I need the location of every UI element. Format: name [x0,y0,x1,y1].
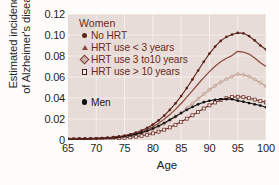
y-tick-label: 0.10 [44,29,65,41]
legend-men: Men [78,96,111,108]
y-tick-label: 0.06 [44,71,65,83]
filled-circle-icon [78,33,91,38]
x-axis-title: Age [68,159,266,171]
legend-group-title-women: Women [79,17,188,29]
x-tick-label: 100 [257,142,275,154]
legend-label-hrt-over-10: HRT use > 10 years [91,66,180,77]
x-tick-label: 65 [62,142,74,154]
legend-label-hrt-under-3: HRT use < 3 years [91,42,174,53]
y-axis-title: Estimated incidence of Alzheimer's disea… [7,0,34,113]
x-axis-tick-labels: 65707580859095100 [68,142,266,158]
y-tick-label: 0.02 [44,113,65,125]
y-axis-tick-labels: 00.020.040.060.080.100.12 [31,8,65,140]
filled-triangle-icon [78,45,91,50]
legend-label-hrt-3-to-10: HRT use 3 to10 years [91,54,188,65]
x-tick-label: 75 [119,142,131,154]
x-tick-label: 80 [147,142,159,154]
alzheimer-incidence-chart: Estimated incidence of Alzheimer's disea… [0,0,279,185]
open-square-icon [78,69,91,75]
legend-item-hrt-3-to-10[interactable]: HRT use 3 to10 years [78,54,188,66]
y-tick-label: 0.08 [44,50,65,62]
y-axis-title-line1: Estimated incidence [7,0,19,89]
x-tick-label: 85 [175,142,187,154]
x-tick-label: 90 [204,142,216,154]
legend-label-men: Men [91,97,111,108]
legend-women: Women No HRT HRT use < 3 years HRT use 3… [78,17,188,78]
filled-diamond-icon [78,56,91,63]
y-tick-label: 0.12 [44,8,65,20]
y-tick-label: 0.04 [44,92,65,104]
filled-circle-icon [78,99,91,105]
legend-item-hrt-under-3[interactable]: HRT use < 3 years [78,42,188,54]
x-tick-label: 95 [232,142,244,154]
legend-item-men[interactable]: Men [78,96,111,108]
x-tick-label: 70 [90,142,102,154]
legend-label-no-hrt: No HRT [91,30,127,41]
legend-item-no-hrt[interactable]: No HRT [78,30,188,42]
plot-area: Women No HRT HRT use < 3 years HRT use 3… [68,14,266,140]
legend-item-hrt-over-10[interactable]: HRT use > 10 years [78,66,188,78]
